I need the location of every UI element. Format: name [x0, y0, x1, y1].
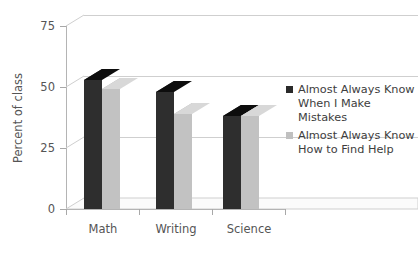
gridline-depth-25	[66, 137, 84, 148]
bar-front-face	[223, 116, 241, 209]
frame-depth-top-left	[66, 15, 84, 26]
x-tick-label-math: Math	[89, 222, 118, 236]
y-tick-label-25: 25	[40, 141, 55, 155]
x-tick-label-writing: Writing	[155, 222, 196, 236]
y-tick-label-75: 75	[40, 19, 55, 33]
legend-label-line-0: Almost Always Know	[298, 83, 415, 96]
chart-legend: Almost Always Know When I Make Mistakes …	[286, 83, 415, 156]
legend-label-line-2: Mistakes	[298, 111, 347, 124]
bar-front-face	[102, 89, 120, 209]
y-tick-marks	[60, 26, 66, 209]
legend-item-1[interactable]: Almost Always Know How to Find Help	[286, 129, 415, 156]
bar-group-writing	[156, 81, 210, 209]
bar-front-face	[174, 114, 192, 209]
y-axis-title: Percent of class	[11, 73, 25, 163]
bar-front-face	[84, 80, 102, 209]
y-tick-labels: 75 50 25 0	[40, 19, 55, 216]
bar-science-series-1[interactable]	[241, 105, 277, 209]
legend-swatch-icon	[286, 86, 293, 93]
bar-top-face	[84, 69, 120, 80]
y-tick-label-50: 50	[40, 80, 55, 94]
legend-label-line-1: When I Make	[298, 97, 371, 110]
x-tick-marks	[66, 209, 285, 215]
y-tick-label-0: 0	[48, 202, 55, 216]
bar-front-face	[241, 116, 259, 209]
bar-top-face	[156, 81, 192, 92]
legend-label-line-0: Almost Always Know	[298, 129, 415, 142]
bar-math-series-1[interactable]	[102, 78, 138, 209]
bar-writing-series-1[interactable]	[174, 103, 210, 209]
bar-front-face	[156, 92, 174, 209]
legend-swatch-icon	[286, 132, 293, 139]
x-tick-labels: Math Writing Science	[89, 222, 272, 236]
bar-group-math	[84, 69, 138, 209]
legend-item-0[interactable]: Almost Always Know When I Make Mistakes	[286, 83, 415, 124]
chart-container: 75 50 25 0 Percent of class	[0, 0, 418, 253]
legend-label-line-1: How to Find Help	[298, 143, 394, 156]
bar-group-science	[223, 105, 277, 209]
bar-top-face	[102, 78, 138, 89]
x-tick-label-science: Science	[227, 222, 272, 236]
bar-top-face	[174, 103, 210, 114]
gridline-depth-50	[66, 76, 84, 87]
bar-chart: 75 50 25 0 Percent of class	[0, 0, 418, 253]
